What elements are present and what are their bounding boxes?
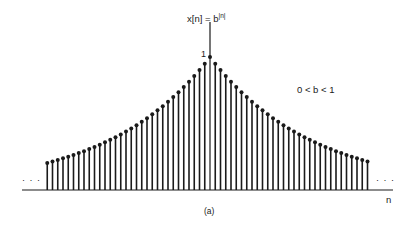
condition-label: 0 < b < 1	[297, 84, 335, 95]
stem-marker	[287, 126, 291, 130]
stem-marker	[229, 80, 233, 84]
stem-marker	[234, 85, 238, 89]
stem-marker	[355, 156, 359, 160]
stem-marker	[187, 80, 191, 84]
stem-marker	[350, 155, 354, 159]
stem-marker	[77, 151, 81, 155]
stem-marker	[192, 74, 196, 78]
stem-marker	[145, 116, 149, 120]
stem-marker	[334, 149, 338, 153]
stem-marker	[150, 112, 154, 116]
stem-marker	[66, 155, 70, 159]
stem-marker	[303, 135, 307, 139]
stem-marker	[103, 140, 107, 144]
stem-marker	[156, 108, 160, 112]
stem-marker	[360, 158, 364, 162]
stem-marker	[366, 159, 370, 163]
stem-marker	[166, 100, 170, 104]
stem-marker	[51, 159, 55, 163]
n-axis-label: n	[386, 194, 391, 205]
stem-marker	[124, 129, 128, 133]
stem-marker	[261, 108, 265, 112]
stem-marker	[171, 95, 175, 99]
stem-marker	[161, 104, 165, 108]
stem-marker	[255, 104, 259, 108]
stem-marker	[61, 156, 65, 160]
stem-marker	[219, 68, 223, 72]
stem-marker	[308, 138, 312, 142]
stem-marker	[182, 85, 186, 89]
stem-marker	[224, 74, 228, 78]
stem-marker	[313, 140, 317, 144]
stem-marker	[87, 147, 91, 151]
stem-marker	[198, 68, 202, 72]
stem-marker	[240, 90, 244, 94]
stem-marker	[203, 62, 207, 66]
stem-marker	[56, 158, 60, 162]
stem-marker	[276, 120, 280, 124]
stem-marker	[266, 112, 270, 116]
ellipsis-right: · · ·	[376, 175, 395, 185]
stem-marker	[250, 100, 254, 104]
stem-marker	[324, 145, 328, 149]
stem-marker	[177, 90, 181, 94]
stem-marker	[339, 151, 343, 155]
stem-series	[45, 55, 369, 190]
stem-marker	[318, 143, 322, 147]
stem-marker	[135, 123, 139, 127]
stem-marker	[292, 129, 296, 133]
stem-marker	[45, 161, 49, 165]
figure-caption: (a)	[204, 206, 215, 216]
stem-marker	[82, 149, 86, 153]
ellipsis-left: · · ·	[22, 175, 41, 185]
stem-marker	[140, 120, 144, 124]
peak-value-label: 1	[201, 49, 206, 59]
stem-marker	[245, 95, 249, 99]
stem-marker	[345, 153, 349, 157]
stem-marker	[114, 135, 118, 139]
stem-marker	[329, 147, 333, 151]
stem-marker	[93, 145, 97, 149]
stem-plot: x[n] = b|n| 1 0 < b < 1 · · · · · · n (a…	[0, 0, 418, 229]
stem-marker	[297, 132, 301, 136]
stem-marker	[282, 123, 286, 127]
stem-marker	[271, 116, 275, 120]
stem-marker	[129, 126, 133, 130]
stem-marker	[72, 153, 76, 157]
stem-marker	[213, 62, 217, 66]
equation-label: x[n] = b|n|	[187, 12, 226, 24]
stem-marker	[108, 138, 112, 142]
stem-marker	[119, 132, 123, 136]
stem-marker	[98, 143, 102, 147]
